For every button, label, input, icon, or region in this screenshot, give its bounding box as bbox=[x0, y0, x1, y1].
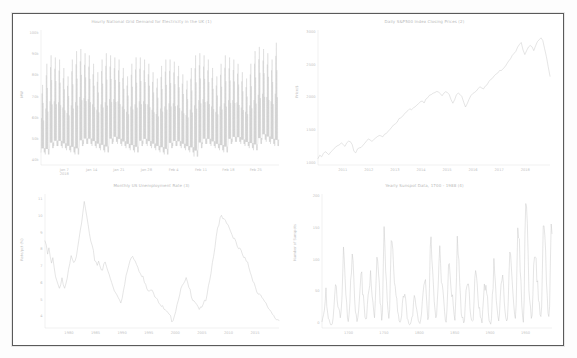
x-tick-label: Feb 25 bbox=[244, 168, 268, 172]
x-tick-label: 1850 bbox=[443, 331, 467, 335]
x-tick-label: Feb 11 bbox=[189, 168, 213, 172]
x-tick-label: 2018 bbox=[513, 168, 537, 172]
chart-title-4: Yearly Sunspot Data, 1700 - 1988 (4) bbox=[288, 184, 561, 188]
x-tick-label: 2011 bbox=[331, 168, 355, 172]
y-tick-label: 4 bbox=[40, 315, 42, 319]
x-tick-label: 1990 bbox=[110, 331, 134, 335]
x-tick-label: 2013 bbox=[383, 168, 407, 172]
x-tick-label: 1985 bbox=[84, 331, 108, 335]
y-tick-label: 0 bbox=[317, 322, 319, 326]
x-tick-label: 1800 bbox=[407, 331, 431, 335]
x-tick-label: 2005 bbox=[190, 331, 214, 335]
x-tick-label: 2015 bbox=[243, 331, 267, 335]
y-tick-label: 200 bbox=[313, 195, 320, 199]
plot-area-3: 1110987654Rate/pct (%)198019851990199520… bbox=[45, 194, 279, 328]
x-tick-label: 2012 bbox=[357, 168, 381, 172]
y-tick-label: 50k bbox=[32, 138, 39, 142]
y-tick-label: 5 bbox=[40, 299, 42, 303]
y-tick-label: 1000 bbox=[306, 162, 315, 166]
x-tick-label: 2016 bbox=[461, 168, 485, 172]
x-tick-label: 2015 bbox=[435, 168, 459, 172]
series-canvas bbox=[318, 30, 550, 165]
x-tick-label: 2017 bbox=[487, 168, 511, 172]
plot-area-2: 30002500200015001000Price/$2011201220132… bbox=[318, 30, 550, 165]
y-tick-label: 1500 bbox=[306, 129, 315, 133]
chart-panel-electricity-demand: Hourly National Grid Demand for Electric… bbox=[15, 16, 288, 180]
series-canvas bbox=[41, 30, 279, 165]
x-tick-label: 2000 bbox=[163, 331, 187, 335]
y-tick-label: 100k bbox=[30, 32, 39, 36]
y-tick-label: 10 bbox=[38, 215, 43, 219]
chart-title-3: Monthly US Unemployment Rate (3) bbox=[15, 184, 288, 188]
y-tick-label: 6 bbox=[40, 282, 42, 286]
x-tick-label: 1950 bbox=[513, 331, 537, 335]
y-tick-label: 70k bbox=[32, 96, 39, 100]
figure-frame: Hourly National Grid Demand for Electric… bbox=[12, 13, 564, 346]
plot-area-4: 200150100500Number of Sunspots1700175018… bbox=[322, 194, 552, 328]
y-tick-label: 40k bbox=[32, 159, 39, 163]
x-tick-label: Jan 72018 bbox=[52, 168, 76, 177]
x-tick-label: 1700 bbox=[337, 331, 361, 335]
x-tick-label: Feb 18 bbox=[216, 168, 240, 172]
y-tick-label: 9 bbox=[40, 232, 42, 236]
y-tick-label: 50 bbox=[315, 290, 320, 294]
x-tick-label: Feb 4 bbox=[162, 168, 186, 172]
series-canvas bbox=[45, 194, 279, 328]
x-tick-label: 1980 bbox=[57, 331, 81, 335]
chart-panel-unemployment: Monthly US Unemployment Rate (3) 1110987… bbox=[15, 180, 288, 344]
y-tick-label: 11 bbox=[38, 198, 43, 202]
y-tick-label: 80k bbox=[32, 74, 39, 78]
x-tick-label: 2010 bbox=[216, 331, 240, 335]
x-tick-label: 1900 bbox=[478, 331, 502, 335]
x-tick-label: Jan 21 bbox=[107, 168, 131, 172]
chart-panel-sp500: Daily S&P500 Index Closing Prices (2) 30… bbox=[288, 16, 561, 180]
y-tick-label: 2000 bbox=[306, 96, 315, 100]
x-tick-label: Jan 14 bbox=[80, 168, 104, 172]
series-canvas bbox=[322, 194, 552, 328]
y-tick-label: 7 bbox=[40, 265, 42, 269]
y-tick-label: 60k bbox=[32, 117, 39, 121]
y-tick-label: 150 bbox=[313, 227, 320, 231]
subplot-grid: Hourly National Grid Demand for Electric… bbox=[15, 16, 561, 343]
x-tick-label: 1995 bbox=[137, 331, 161, 335]
chart-title-1: Hourly National Grid Demand for Electric… bbox=[15, 20, 288, 24]
y-tick-label: 100 bbox=[313, 259, 320, 263]
y-tick-label: 2500 bbox=[306, 64, 315, 68]
chart-panel-sunspots: Yearly Sunspot Data, 1700 - 1988 (4) 200… bbox=[288, 180, 561, 344]
y-tick-label: 8 bbox=[40, 248, 42, 252]
plot-area-1: 100k90k80k70k60k50k40kMWJan 72018Jan 14J… bbox=[41, 30, 279, 165]
x-tick-label: 2014 bbox=[409, 168, 433, 172]
chart-title-2: Daily S&P500 Index Closing Prices (2) bbox=[288, 20, 561, 24]
x-tick-label: 1750 bbox=[372, 331, 396, 335]
x-tick-label: Jan 28 bbox=[134, 168, 158, 172]
y-tick-label: 3000 bbox=[306, 31, 315, 35]
y-tick-label: 90k bbox=[32, 53, 39, 57]
